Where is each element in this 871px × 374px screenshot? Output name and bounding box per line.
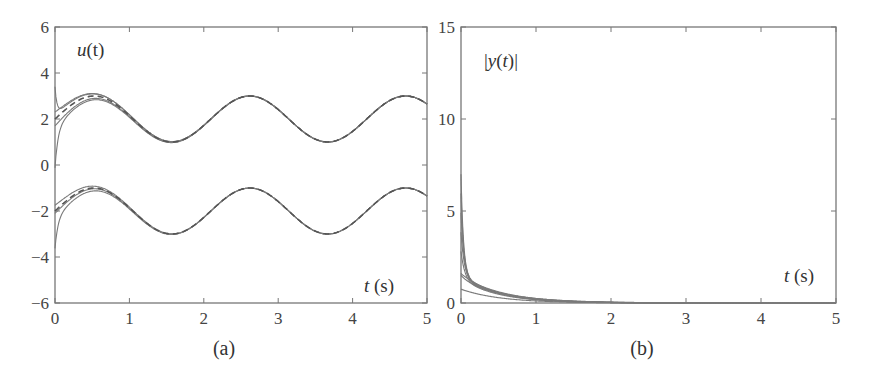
y-tick-label: −2: [31, 202, 49, 221]
y-tick-label: 0: [447, 294, 456, 313]
annotation-abs-y: |y(t)|: [484, 50, 518, 72]
panel-b: 012345051015 |y(t)| t (s) (b): [438, 18, 840, 360]
x-tick-label: 3: [274, 309, 283, 328]
y-tick-label: 4: [41, 64, 50, 83]
abs-y-line: [461, 194, 836, 304]
x-tick-label: 2: [607, 309, 616, 328]
y-tick-label: 2: [41, 110, 50, 129]
x-tick-label: 4: [757, 309, 766, 328]
y-tick-label: −4: [31, 248, 50, 267]
plot-lines-b: [461, 174, 836, 303]
trajectory-line: [55, 96, 427, 168]
panel-label-a: (a): [213, 337, 235, 360]
y-tick-label: 6: [41, 18, 50, 37]
x-tick-label: 5: [423, 309, 432, 328]
x-tick-label: 5: [832, 309, 841, 328]
plot-lines-a: [55, 87, 427, 249]
x-tick-label: 1: [532, 309, 541, 328]
xlabel-b: t (s): [784, 265, 814, 287]
panel-a: 012345−6−4−20246 u(t) t (s) (a): [31, 18, 431, 360]
y-tick-label: −6: [31, 294, 49, 313]
x-tick-label: 2: [200, 309, 209, 328]
x-tick-label: 4: [348, 309, 357, 328]
y-tick-label: 10: [438, 110, 455, 129]
x-tick-label: 1: [125, 309, 134, 328]
abs-y-line: [461, 232, 836, 303]
trajectory-line: [55, 188, 427, 248]
trajectory-line: [55, 96, 427, 142]
xlabel-a: t (s): [364, 275, 394, 297]
x-tick-label: 0: [51, 309, 60, 328]
y-tick-label: 0: [41, 156, 50, 175]
x-tick-label: 3: [682, 309, 691, 328]
abs-y-line: [461, 213, 836, 303]
x-tick-label: 0: [457, 309, 466, 328]
abs-y-line: [461, 274, 836, 303]
abs-y-line: [461, 174, 836, 303]
figure: 012345−6−4−20246 u(t) t (s) (a) 01234505…: [0, 0, 871, 374]
abs-y-line: [461, 275, 836, 303]
panel-label-b: (b): [630, 337, 653, 360]
y-tick-label: 15: [438, 18, 455, 37]
y-tick-label: 5: [447, 202, 456, 221]
axes-frame-a: [55, 27, 427, 303]
annotation-u: u(t): [77, 39, 104, 61]
